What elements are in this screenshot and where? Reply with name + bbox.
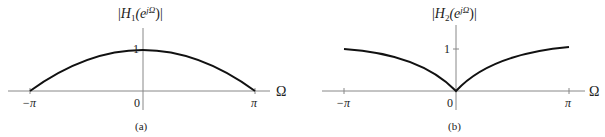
- panel-label-a: (a): [135, 120, 148, 133]
- panel-label-b: (b): [448, 120, 461, 133]
- chart-panel-a: |H1(ejΩ)| 1 −π 0 π Ω (a): [8, 5, 286, 133]
- x-tick-pi: π: [251, 96, 258, 110]
- y-axis-label: |H1(ejΩ)|: [118, 5, 163, 23]
- figure: |H1(ejΩ)| 1 −π 0 π Ω (a) |H2(ejΩ)| 1 −π …: [0, 0, 605, 137]
- chart-panel-b: |H2(ejΩ)| 1 −π 0 π Ω (b): [322, 5, 599, 133]
- x-tick-0: 0: [447, 96, 453, 110]
- x-tick-pi: π: [565, 96, 572, 110]
- x-axis-label: Ω: [276, 84, 286, 99]
- x-tick-0: 0: [134, 96, 140, 110]
- y-axis-label: |H2(ejΩ)|: [432, 5, 477, 23]
- y-tick-1: 1: [444, 42, 450, 56]
- x-tick-neg-pi: −π: [336, 96, 351, 110]
- x-axis-label: Ω: [589, 84, 599, 99]
- x-tick-neg-pi: −π: [22, 96, 37, 110]
- y-tick-1: 1: [133, 42, 139, 56]
